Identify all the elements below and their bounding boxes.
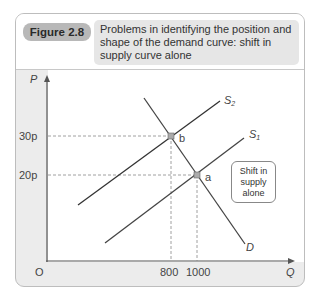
supply-curve-s2: [78, 101, 220, 205]
x-tick-800: 800: [160, 266, 178, 278]
demand-supply-chart: P 30p 20p O 800 1000 Q b a S2 S1 D: [0, 0, 320, 301]
x-axis-label: Q: [286, 266, 295, 278]
x-tick-1000: 1000: [186, 266, 210, 278]
point-a-label: a: [205, 171, 212, 183]
equilibrium-point-b: [168, 133, 174, 139]
guide-lines: [48, 136, 197, 261]
y-tick-30p: 30p: [19, 130, 37, 142]
y-axis-label: P: [30, 73, 38, 85]
y-tick-20p: 20p: [19, 169, 37, 181]
supply-curve-s1: [105, 138, 244, 243]
shift-annotation-box: Shift in supply alone: [231, 161, 276, 203]
annotation-line-2: supply: [232, 177, 275, 188]
s1-label: S1: [249, 128, 260, 141]
y-axis-arrow-icon: [44, 75, 50, 82]
annotation-line-1: Shift in: [232, 166, 275, 177]
x-axis-arrow-icon: [288, 258, 295, 264]
origin-label: O: [35, 266, 44, 278]
annotation-line-3: alone: [232, 188, 275, 199]
point-b-label: b: [179, 132, 185, 144]
s2-label: S2: [224, 94, 235, 107]
equilibrium-point-a: [194, 172, 200, 178]
d-label: D: [246, 241, 254, 253]
